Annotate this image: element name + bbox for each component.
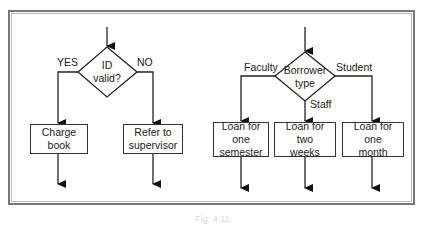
- branch-label-no: NO: [137, 57, 153, 68]
- branch-label-staff: Staff: [310, 99, 331, 110]
- process-box-loan-month: Loan for onemonth: [342, 122, 404, 157]
- figure-caption: Fig. 4.11: [0, 214, 425, 224]
- faculty-connector: [241, 76, 275, 121]
- branch-label-yes: YES: [57, 57, 78, 68]
- process-box-charge-book: Chargebook: [30, 124, 88, 154]
- decision-text-id-valid: ID valid?: [82, 59, 132, 85]
- decision-text-borrower-type: Borrower type: [275, 64, 335, 90]
- process-box-refer-supervisor: Refer tosupervisor: [123, 124, 183, 154]
- no-connector: [137, 72, 153, 123]
- student-connector: [335, 76, 372, 121]
- yes-connector: [58, 72, 78, 123]
- process-box-loan-two-weeks: Loan for twoweeks: [274, 122, 336, 157]
- branch-label-student: Student: [336, 62, 372, 73]
- process-box-loan-semester: Loan for onesemester: [213, 122, 269, 157]
- branch-label-faculty: Faculty: [244, 62, 278, 73]
- flowchart-connectors: [0, 0, 425, 228]
